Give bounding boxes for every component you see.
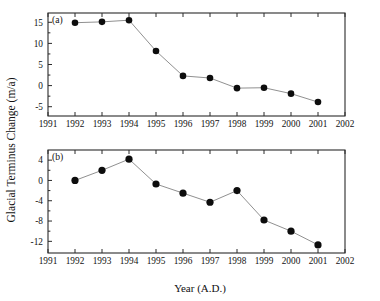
x-tick-label: 1997	[201, 256, 220, 266]
x-tick-label: 2000	[282, 256, 301, 266]
data-point	[233, 187, 240, 194]
x-tick-label: 1993	[93, 119, 112, 129]
panel-b-tag: (b)	[52, 151, 63, 163]
y-tick-label: 15	[34, 18, 44, 28]
x-axis-label-text: Year (A.D.)	[174, 282, 226, 295]
panel-a-tag: (a)	[52, 14, 63, 26]
x-tick-label: 1997	[201, 119, 220, 129]
y-tick-label: -4	[35, 196, 43, 206]
x-tick-label: 1994	[120, 119, 139, 129]
data-point	[234, 85, 241, 92]
x-tick-label: 1991	[39, 256, 58, 266]
y-tick-label: 10	[34, 39, 44, 49]
data-point	[314, 241, 321, 248]
data-point	[152, 180, 159, 187]
x-tick-label: 2001	[309, 119, 328, 129]
y-tick-label: 0	[38, 176, 43, 186]
x-tick-label: 1995	[147, 256, 166, 266]
data-point	[126, 17, 133, 24]
y-tick-label: 0	[38, 81, 43, 91]
y-axis-label: Glacial Terminus Change (m/a)	[5, 77, 18, 222]
x-tick-label: 1991	[39, 119, 58, 129]
y-tick-label: -8	[35, 216, 43, 226]
x-tick-label: 1993	[93, 256, 112, 266]
data-point	[261, 84, 268, 91]
x-tick-label: 2001	[309, 256, 328, 266]
y-axis-label-text: Glacial Terminus Change (m/a)	[5, 77, 18, 222]
y-tick-label: 4	[38, 155, 43, 165]
figure-chart: Glacial Terminus Change (m/a) 1991199219…	[0, 0, 380, 301]
data-point	[72, 19, 79, 26]
x-tick-label: 1996	[174, 256, 193, 266]
data-point	[287, 228, 294, 235]
x-tick-label: 1999	[255, 119, 274, 129]
data-point	[153, 48, 160, 55]
x-tick-label: 1996	[174, 119, 193, 129]
y-tick-label: 5	[38, 60, 43, 70]
data-point	[207, 75, 214, 82]
x-tick-label: 1994	[120, 256, 139, 266]
x-tick-label: 2002	[336, 119, 355, 129]
data-point	[98, 167, 105, 174]
data-point	[180, 73, 187, 80]
data-point	[260, 216, 267, 223]
x-tick-label: 1992	[66, 256, 85, 266]
y-tick-label: -12	[31, 237, 44, 247]
x-tick-label: 2000	[282, 119, 301, 129]
data-point	[288, 90, 295, 97]
x-tick-label: 1998	[228, 256, 247, 266]
data-point	[206, 199, 213, 206]
data-point	[125, 156, 132, 163]
data-point	[71, 177, 78, 184]
data-point	[179, 190, 186, 197]
x-tick-label: 1999	[255, 256, 274, 266]
data-point	[315, 99, 322, 106]
data-point	[99, 19, 106, 26]
x-tick-label: 2002	[336, 256, 355, 266]
x-tick-label: 1998	[228, 119, 247, 129]
y-tick-label: -5	[35, 102, 43, 112]
x-tick-label: 1992	[66, 119, 85, 129]
x-tick-label: 1995	[147, 119, 166, 129]
